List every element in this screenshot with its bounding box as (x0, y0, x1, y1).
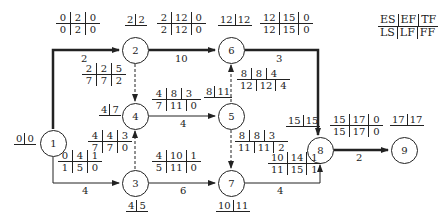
tf: 0 (85, 12, 100, 23)
node-1-times: 00 (14, 133, 36, 145)
ls: 7 (82, 75, 96, 86)
node-5-times: 811 (204, 86, 232, 98)
tf: 5 (111, 63, 126, 74)
params-4-5: 483 7110 (152, 88, 201, 111)
legend-ls: LS (378, 27, 397, 39)
et: 12 (218, 14, 235, 25)
ff: 4 (275, 80, 290, 91)
ff: 1 (306, 164, 321, 175)
node-2-times: 22 (125, 14, 147, 26)
duration-3-7: 6 (180, 185, 186, 196)
es: 8 (237, 68, 251, 79)
ff: 0 (186, 100, 201, 111)
lf: 5 (72, 162, 87, 173)
node-2: 2 (122, 37, 149, 64)
params-5-7: 883 11112 (235, 130, 288, 153)
ef: 8 (166, 88, 181, 99)
ef: 4 (102, 130, 117, 141)
et: 17 (390, 114, 407, 125)
et: 0 (14, 133, 24, 144)
node-8-times: 1515 (286, 115, 320, 127)
es: 4 (152, 88, 166, 99)
lf: 12 (256, 80, 276, 91)
lt: 0 (24, 133, 35, 144)
ls: 12 (260, 24, 279, 35)
es: 12 (260, 12, 279, 23)
node-9: 9 (391, 137, 418, 164)
params-2-4: 225 772 (82, 63, 126, 86)
ff: 0 (85, 24, 100, 35)
node-3-times: 45 (126, 200, 148, 212)
ff: 0 (298, 24, 313, 35)
et: 4 (99, 104, 109, 115)
lf: 17 (349, 126, 369, 137)
node-6-times: 1212 (218, 14, 252, 26)
legend-es: ES (378, 14, 398, 26)
et: 4 (126, 200, 136, 211)
ls: 15 (330, 126, 349, 137)
et: 8 (204, 86, 214, 97)
ff: 0 (87, 162, 102, 173)
et: 15 (286, 115, 303, 126)
ff: 0 (186, 162, 201, 173)
et: 2 (125, 14, 135, 25)
ls: 1 (58, 162, 72, 173)
node-4-times: 47 (99, 104, 121, 116)
lf: 15 (287, 164, 307, 175)
lt: 7 (109, 104, 120, 115)
params-2-6: 2120 2120 (157, 12, 206, 35)
ef: 14 (287, 152, 307, 163)
params-3-7: 4101 5110 (152, 150, 201, 173)
legend-ef: EF (398, 14, 419, 26)
ef: 2 (70, 12, 85, 23)
es: 0 (58, 150, 72, 161)
tf: 0 (191, 12, 206, 23)
duration-1-2: 2 (81, 53, 87, 64)
params-7-8: 10141 11151 (268, 152, 321, 175)
ls: 12 (237, 80, 256, 91)
node-5: 5 (218, 103, 245, 130)
ef: 10 (166, 150, 186, 161)
duration-1-3: 4 (82, 185, 88, 196)
lt: 5 (136, 200, 147, 211)
tf: 3 (117, 130, 132, 141)
legend-tf: TF (418, 14, 438, 26)
ef: 8 (249, 130, 264, 141)
duration-2-6: 10 (175, 53, 188, 64)
tf: 3 (181, 88, 196, 99)
ff: 0 (191, 24, 206, 35)
tf: 0 (298, 12, 313, 23)
ff: 0 (117, 142, 132, 153)
ls: 11 (235, 142, 254, 153)
duration-4-5: 4 (180, 118, 186, 129)
node-7-times: 1011 (216, 200, 250, 212)
node-6: 6 (218, 37, 245, 64)
ef: 15 (279, 12, 299, 23)
lt: 2 (135, 14, 146, 25)
tf: 0 (368, 114, 383, 125)
lf: 11 (166, 100, 186, 111)
duration-8-9: 2 (356, 152, 362, 163)
es: 4 (152, 150, 166, 161)
tf: 1 (87, 150, 102, 161)
ls: 7 (152, 100, 166, 111)
params-6-8: 12150 12150 (260, 12, 313, 35)
lt: 17 (407, 114, 425, 125)
node-9-times: 1717 (390, 114, 424, 126)
lt: 15 (303, 115, 321, 126)
lt: 11 (233, 200, 251, 211)
tf: 1 (186, 150, 201, 161)
legend-ff: FF (417, 27, 437, 39)
ff: 0 (368, 126, 383, 137)
es: 4 (88, 130, 102, 141)
duration-6-8: 3 (276, 53, 282, 64)
duration-7-8: 4 (277, 185, 283, 196)
legend-lf: LF (397, 27, 417, 39)
tf: 1 (306, 152, 321, 163)
lt: 12 (235, 14, 253, 25)
node-4: 4 (122, 103, 149, 130)
params-8-9: 15170 15170 (330, 114, 383, 137)
lf: 15 (279, 24, 299, 35)
es: 10 (268, 152, 287, 163)
es: 2 (157, 12, 171, 23)
